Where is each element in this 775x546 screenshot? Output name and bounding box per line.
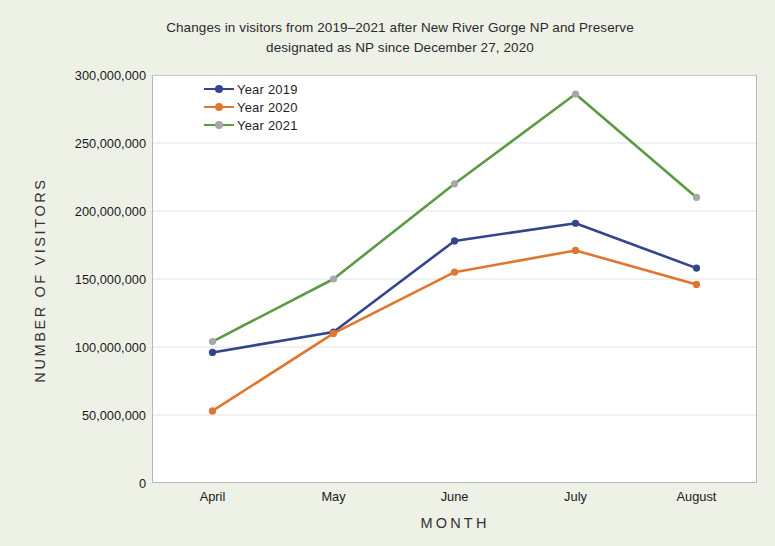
legend-swatch-icon	[204, 82, 234, 96]
x-axis-title: MONTH	[150, 515, 760, 531]
legend: Year 2019Year 2020Year 2021	[204, 80, 324, 134]
legend-item-3[interactable]: Year 2021	[204, 116, 324, 134]
x-axis-tick-label: June	[441, 489, 469, 504]
y-axis-tick-label: 100,000,000	[28, 340, 146, 355]
legend-item-1[interactable]: Year 2019	[204, 80, 324, 98]
x-axis-tick-label: April	[200, 489, 226, 504]
y-axis-tick-label: 50,000,000	[28, 408, 146, 423]
legend-swatch-icon	[204, 118, 234, 132]
chart-title: Changes in visitors from 2019–2021 after…	[120, 18, 680, 58]
chart-title-line-2: designated as NP since December 27, 2020	[120, 38, 680, 58]
y-axis-tick-label: 150,000,000	[28, 272, 146, 287]
x-axis-tick-label: July	[564, 489, 587, 504]
chart-title-line-1: Changes in visitors from 2019–2021 after…	[166, 20, 634, 35]
legend-label: Year 2021	[234, 118, 298, 133]
y-axis-tick-labels: 050,000,000100,000,000150,000,000200,000…	[24, 0, 146, 546]
y-axis-tick-label: 0	[28, 476, 146, 491]
x-axis-tick-label: May	[321, 489, 345, 504]
plot-area	[152, 75, 757, 483]
legend-label: Year 2019	[234, 82, 298, 97]
legend-swatch-icon	[204, 100, 234, 114]
x-axis-tick-label: August	[677, 489, 717, 504]
y-axis-tick-label: 300,000,000	[28, 68, 146, 83]
y-axis-tick-label: 250,000,000	[28, 136, 146, 151]
legend-label: Year 2020	[234, 100, 298, 115]
line-chart: Changes in visitors from 2019–2021 after…	[0, 0, 775, 546]
y-axis-tick-label: 200,000,000	[28, 204, 146, 219]
legend-item-2[interactable]: Year 2020	[204, 98, 324, 116]
